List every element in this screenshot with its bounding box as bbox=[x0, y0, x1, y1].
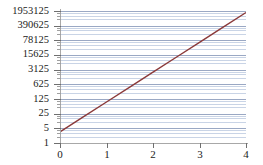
y-axis-minor-tick bbox=[57, 104, 61, 105]
y-axis-tick-label: 15625 bbox=[23, 49, 49, 60]
y-axis-minor-tick bbox=[57, 78, 61, 79]
y-axis-minor-tick bbox=[57, 133, 61, 134]
y-axis-minor-tick bbox=[57, 16, 61, 17]
y-axis-minor-tick bbox=[57, 101, 61, 102]
x-axis-tick-label: 0 bbox=[48, 149, 72, 160]
x-axis-tick-label: 1 bbox=[95, 149, 119, 160]
y-axis-tick bbox=[54, 128, 61, 129]
y-axis-tick bbox=[54, 114, 61, 115]
plot-area bbox=[60, 11, 246, 143]
y-axis-minor-tick bbox=[57, 74, 61, 75]
y-axis-tick bbox=[54, 26, 61, 27]
y-axis-minor-tick bbox=[57, 34, 61, 35]
y-axis-minor-tick bbox=[57, 130, 61, 131]
y-axis-minor-tick bbox=[57, 63, 61, 64]
y-axis-tick-label: 125 bbox=[33, 94, 49, 105]
series-line bbox=[60, 11, 246, 143]
y-axis-minor-tick bbox=[57, 45, 61, 46]
y-axis-minor-tick bbox=[57, 49, 61, 50]
y-axis-minor-tick bbox=[57, 137, 61, 138]
y-axis-tick bbox=[54, 11, 61, 12]
y-axis-tick-label: 3125 bbox=[28, 64, 49, 75]
y-axis-tick-label: 1953125 bbox=[12, 6, 49, 17]
y-axis-tick-label: 25 bbox=[39, 108, 50, 119]
y-axis-minor-tick bbox=[57, 30, 61, 31]
y-axis-tick-label: 1 bbox=[44, 138, 49, 149]
y-axis-minor-tick bbox=[57, 89, 61, 90]
y-axis-minor-tick bbox=[57, 86, 61, 87]
y-axis-minor-tick bbox=[57, 13, 61, 14]
x-axis-tick-label: 4 bbox=[234, 149, 258, 160]
x-axis-tick-label: 3 bbox=[188, 149, 212, 160]
y-axis-tick bbox=[54, 84, 61, 85]
y-axis-minor-tick bbox=[57, 57, 61, 58]
y-axis-minor-tick bbox=[57, 107, 61, 108]
y-axis-tick-label: 5 bbox=[44, 123, 49, 134]
x-axis-tick-label: 2 bbox=[141, 149, 165, 160]
y-axis-minor-tick bbox=[57, 116, 61, 117]
chart-figure: 1953125390625781251562531256251252551 01… bbox=[0, 0, 263, 165]
y-axis-tick bbox=[54, 55, 61, 56]
y-axis-minor-tick bbox=[57, 42, 61, 43]
y-axis-tick-label: 78125 bbox=[23, 35, 49, 46]
y-axis-minor-tick bbox=[57, 118, 61, 119]
y-axis-minor-tick bbox=[57, 122, 61, 123]
y-axis-minor-tick bbox=[57, 60, 61, 61]
y-axis-tick bbox=[54, 99, 61, 100]
y-axis-minor-tick bbox=[57, 28, 61, 29]
y-axis-minor-tick bbox=[57, 72, 61, 73]
y-axis-tick bbox=[54, 40, 61, 41]
y-axis-tick-label: 625 bbox=[33, 79, 49, 90]
y-axis-tick-label: 390625 bbox=[18, 20, 50, 31]
y-axis-tick bbox=[54, 70, 61, 71]
y-axis-minor-tick bbox=[57, 93, 61, 94]
y-axis-minor-tick bbox=[57, 19, 61, 20]
